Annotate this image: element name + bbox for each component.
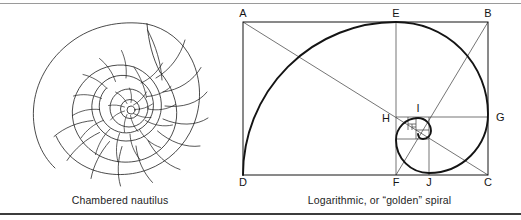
vertex-label-D: D <box>239 176 247 188</box>
nautilus-whorl-3 <box>92 67 162 141</box>
vertex-label-H: H <box>382 112 390 124</box>
nautilus-protoconch <box>127 106 135 114</box>
diagonal-A-to-C <box>243 22 488 175</box>
vertex-label-A: A <box>239 8 247 19</box>
golden-spiral-illustration-panel: A E B D F J C G H I <box>238 8 521 188</box>
vertex-label-J: J <box>426 176 432 188</box>
nautilus-aperture-edge <box>147 24 160 72</box>
bottom-divider-rule <box>0 213 521 215</box>
vertex-label-F: F <box>393 176 400 188</box>
vertex-label-C: C <box>484 176 492 188</box>
nautilus-whorl-2 <box>72 65 176 162</box>
diagonal-lines <box>243 22 488 175</box>
nautilus-septa-outer <box>54 30 208 186</box>
top-divider-rule <box>0 3 521 4</box>
nautilus-illustration-panel <box>0 8 240 188</box>
caption-golden-spiral: Logarithmic, or “golden” spiral <box>238 194 521 206</box>
vertex-label-E: E <box>392 8 399 19</box>
nautilus-body-whorl <box>56 24 200 175</box>
nautilus-core-ring <box>121 100 140 119</box>
nautilus-septa-inner <box>73 51 176 163</box>
nautilus-whorl-4 <box>99 75 153 133</box>
vertex-label-G: G <box>496 111 505 123</box>
figure-root: A E B D F J C G H I Chambered nautilus L… <box>0 0 521 220</box>
nautilus-inner-ring <box>110 89 148 127</box>
nautilus-drawing <box>0 8 240 188</box>
nautilus-shell-group <box>33 23 208 186</box>
caption-chambered-nautilus: Chambered nautilus <box>0 194 240 206</box>
golden-spiral-drawing: A E B D F J C G H I <box>238 8 521 188</box>
vertex-label-B: B <box>484 8 491 19</box>
vertex-label-I: I <box>416 102 419 114</box>
